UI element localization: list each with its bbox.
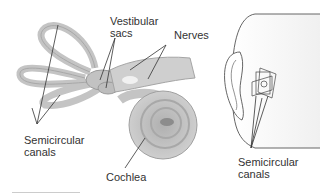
label-semicircular-canals-right: Semicircular canals: [238, 156, 299, 180]
label-semicircular-canals-left: Semicircular canals: [24, 134, 85, 158]
label-cochlea: Cochlea: [106, 171, 146, 183]
cochlea-shape: [120, 91, 197, 159]
label-vestibular-sacs: Vestibular sacs: [110, 15, 158, 39]
label-nerves: Nerves: [174, 29, 209, 41]
nerves-shape: [110, 57, 195, 92]
semicircular-canals-shape: [20, 26, 100, 106]
head-outline: [232, 14, 320, 148]
